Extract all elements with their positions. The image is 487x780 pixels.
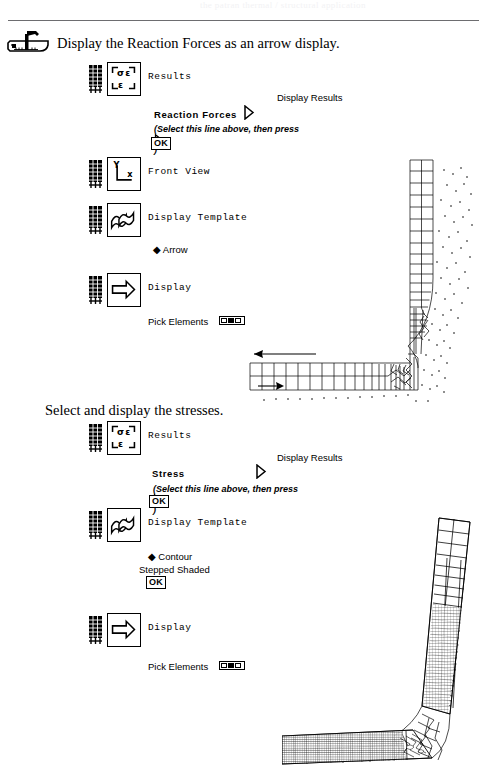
results-sigma-epsilon-icon: σ ε ε: [107, 421, 141, 455]
figure-stress-contour: [282, 508, 487, 780]
svg-text:σ: σ: [117, 68, 124, 78]
form-grid-icon: [88, 205, 103, 235]
mouse-middle-cell: [228, 663, 234, 668]
diamond-bullet-icon: ◆: [148, 551, 156, 562]
ok-button-3[interactable]: OK: [146, 576, 166, 589]
pick-elements-label-1: Pick Elements: [148, 316, 208, 327]
option-contour-label: Contour: [158, 551, 192, 562]
option-contour[interactable]: ◆ Contour: [148, 551, 192, 562]
svg-text:σ: σ: [117, 427, 124, 437]
mouse-right-cell: [235, 318, 241, 323]
svg-text:x: x: [127, 169, 133, 179]
front-view-axes-icon: Y x: [107, 157, 141, 191]
next-triangle-icon-2[interactable]: [255, 464, 267, 479]
pick-elements-label-2: Pick Elements: [148, 661, 208, 672]
form-grid-icon: [88, 159, 103, 189]
form-grid-icon: [88, 64, 103, 94]
form-grid-icon: [88, 615, 103, 645]
display-template-icon: [107, 508, 141, 542]
svg-text:ε: ε: [118, 80, 123, 90]
selection-reaction-forces[interactable]: Reaction Forces: [154, 109, 237, 120]
tutorial-page: the patran thermal / structural applicat…: [0, 0, 487, 780]
menu-label-display-template: Display Template: [148, 517, 247, 528]
hint-text-pre: (Select this line above, then press: [154, 124, 299, 134]
option-arrow[interactable]: ◆ Arrow: [153, 244, 188, 255]
mouse-right-cell: [235, 663, 241, 668]
hammer-anvil-icon: [6, 30, 54, 56]
form-grid-icon: [88, 423, 103, 453]
mouse-middle-button-icon: [219, 661, 245, 670]
results-sigma-epsilon-icon: σ ε ε: [107, 62, 141, 96]
menu-label-front-view: Front View: [148, 166, 210, 177]
panel-title-display-results: Display Results: [277, 92, 342, 103]
mouse-middle-cell: [228, 318, 234, 323]
svg-text:ε: ε: [118, 439, 123, 449]
menu-row-results[interactable]: σ ε ε Results: [88, 62, 278, 96]
option-arrow-label: Arrow: [163, 244, 188, 255]
menu-label-display: Display: [148, 622, 191, 633]
display-arrow-icon: [107, 613, 141, 647]
hint-text-pre: (Select this line above, then press: [153, 484, 298, 494]
mouse-left-cell: [221, 663, 227, 668]
form-grid-icon: [88, 275, 103, 305]
ok-button-1[interactable]: OK: [151, 137, 171, 150]
figure-reaction-forces: [248, 158, 483, 403]
section-heading-stresses: Select and display the stresses.: [45, 402, 223, 418]
header-rule: [8, 20, 479, 21]
option-stepped-shaded[interactable]: Stepped Shaded: [139, 564, 210, 575]
svg-text:ε: ε: [125, 427, 130, 437]
mouse-middle-button-icon: [219, 316, 245, 325]
svg-text:Y: Y: [112, 160, 120, 170]
running-header-ghost: the patran thermal / structural applicat…: [200, 0, 390, 11]
mouse-left-cell: [221, 318, 227, 323]
menu-row-results-2[interactable]: σ ε ε Results: [88, 421, 278, 455]
menu-label-results: Results: [148, 71, 191, 82]
selection-stress[interactable]: Stress: [152, 468, 185, 479]
menu-label-results: Results: [148, 430, 191, 441]
display-arrow-icon: [107, 273, 141, 307]
panel-title-display-results-2: Display Results: [277, 452, 342, 463]
menu-row-display-template-2[interactable]: Display Template: [88, 508, 278, 542]
section-heading-reaction-forces: Display the Reaction Forces as an arrow …: [57, 35, 340, 51]
ok-button-2[interactable]: OK: [149, 495, 169, 508]
form-grid-icon: [88, 510, 103, 540]
svg-text:ε: ε: [125, 68, 130, 78]
menu-label-display-template: Display Template: [148, 212, 247, 223]
hint-line-1: (Select this line above, then press ): [154, 124, 299, 155]
next-triangle-icon-1[interactable]: [243, 105, 255, 120]
diamond-bullet-icon: ◆: [153, 244, 161, 255]
menu-row-display-2[interactable]: Display: [88, 613, 278, 647]
display-template-icon: [107, 203, 141, 237]
menu-label-display: Display: [148, 282, 191, 293]
